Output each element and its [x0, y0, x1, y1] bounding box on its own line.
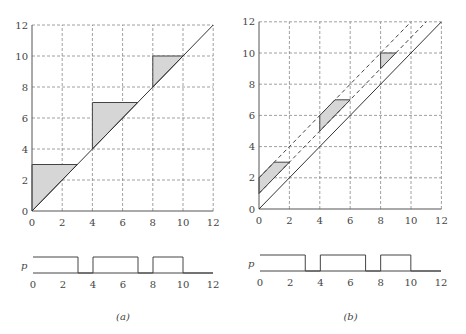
signal-tick-label: 4 [317, 277, 323, 288]
y-tick-label: 6 [249, 110, 255, 121]
panel-caption: (b) [343, 311, 357, 322]
signal-tick-label: 6 [347, 277, 353, 288]
signal-waveform [33, 257, 213, 273]
x-tick-label: 4 [317, 215, 323, 226]
signal-waveform [260, 255, 441, 271]
signal-label: p [248, 258, 255, 269]
dashed-diagonal [259, 22, 426, 194]
x-tick-label: 10 [405, 215, 418, 226]
x-tick-label: 8 [377, 215, 383, 226]
y-tick-label: 4 [249, 141, 255, 152]
x-tick-label: 6 [119, 217, 125, 228]
y-tick-label: 12 [15, 20, 28, 31]
y-tick-label: 2 [249, 172, 255, 183]
signal-tick-label: 0 [30, 279, 36, 290]
signal-tick-label: 12 [207, 279, 220, 290]
x-tick-label: 8 [150, 217, 156, 228]
y-tick-label: 0 [249, 204, 255, 215]
signal-tick-label: 4 [90, 279, 96, 290]
signal-tick-label: 6 [120, 279, 126, 290]
signal-tick-label: 0 [257, 277, 263, 288]
signal-tick-label: 2 [60, 279, 66, 290]
dashed-diagonal [259, 22, 411, 178]
x-tick-label: 2 [286, 215, 292, 226]
signal-tick-label: 10 [177, 279, 190, 290]
signal-label: p [21, 260, 28, 271]
signal-tick-label: 2 [287, 277, 293, 288]
x-tick-label: 10 [177, 217, 190, 228]
x-tick-label: 6 [347, 215, 353, 226]
x-tick-label: 0 [256, 215, 262, 226]
y-tick-label: 2 [22, 175, 28, 186]
panel-b: 002244668810101212p024681012(b) [242, 16, 448, 322]
signal-tick-label: 8 [150, 279, 156, 290]
y-tick-label: 4 [22, 144, 28, 155]
y-tick-label: 10 [242, 48, 255, 59]
signal-tick-label: 12 [435, 277, 448, 288]
x-tick-label: 12 [435, 215, 448, 226]
y-tick-label: 0 [22, 206, 28, 217]
x-tick-label: 4 [89, 217, 95, 228]
x-tick-label: 2 [59, 217, 65, 228]
x-tick-label: 12 [207, 217, 220, 228]
x-tick-label: 0 [29, 217, 35, 228]
y-tick-label: 8 [22, 82, 28, 93]
y-tick-label: 6 [22, 113, 28, 124]
y-tick-label: 8 [249, 79, 255, 90]
signal-tick-label: 8 [377, 277, 383, 288]
figure-canvas: 002244668810101212p024681012(a) 00224466… [0, 0, 466, 334]
y-tick-label: 10 [15, 51, 28, 62]
panel-a: 002244668810101212p024681012(a) [15, 20, 219, 323]
y-tick-label: 12 [242, 16, 255, 27]
signal-tick-label: 10 [404, 277, 417, 288]
panel-caption: (a) [116, 311, 130, 322]
